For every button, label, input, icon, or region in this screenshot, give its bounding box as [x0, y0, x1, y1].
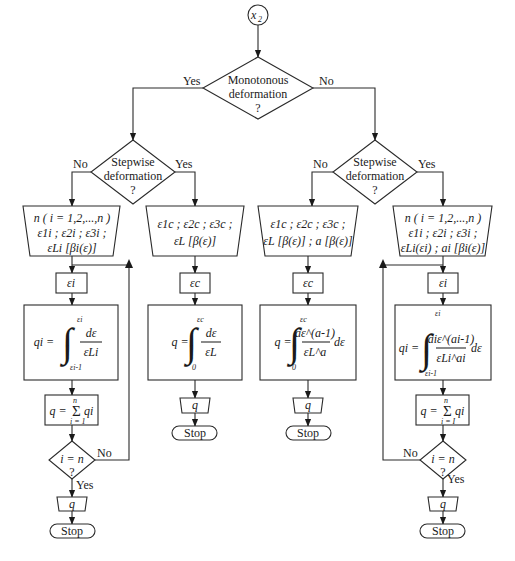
formula-box-col3: q = ∫ εc 0 aε^(a-1) εL^a dε — [260, 305, 356, 380]
text-label: Stop — [61, 524, 83, 538]
text-label: qi — [84, 404, 93, 418]
label-no: No — [319, 74, 334, 88]
text-label: Stop — [432, 524, 454, 538]
input-box-col4: n ( i = 1,2,...,n ) ε1i ; ε2i ; ε3i ; εL… — [393, 206, 492, 256]
decision-stepwise-right: Stepwise deformation ? — [333, 140, 417, 204]
text-label: εL [β(ε)] ; a [β(ε)] — [263, 234, 353, 248]
output-box-col1: q — [57, 497, 87, 511]
variable-box-col3: εc — [293, 273, 323, 293]
label-no: No — [73, 157, 88, 171]
text-label: dε — [206, 326, 217, 340]
stop-terminal-col3: Stop — [286, 426, 331, 440]
text-label: qi — [455, 404, 464, 418]
text-label: εL — [205, 345, 217, 359]
text-label: Stepwise — [111, 155, 154, 169]
text-label: εL^a — [304, 345, 326, 359]
connector — [417, 172, 443, 206]
sum-box-col4: q = Σ n i = I qi — [416, 395, 469, 426]
input-box-col3: ε1c ; ε2c ; ε3c ; εL [β(ε)] ; a [β(ε)] — [258, 206, 358, 256]
text-label: n — [444, 396, 448, 405]
decision-stepwise-left: Stepwise deformation ? — [91, 140, 175, 204]
text-label: ε1c ; ε2c ; ε3c ; — [157, 217, 232, 231]
text-label: εi-1 — [70, 363, 82, 372]
text-label: qi = — [399, 341, 419, 355]
text-label: deformation — [229, 87, 288, 101]
input-box-col2: ε1c ; ε2c ; ε3c ; εL [β(ε)] — [146, 206, 244, 256]
formula-box-col1: qi = ∫ εi εi-1 dε εLi — [24, 305, 118, 380]
text-label: i = n — [431, 452, 454, 466]
label-no: No — [403, 446, 418, 460]
stop-terminal-col1: Stop — [50, 524, 95, 538]
text-label: εc — [197, 315, 204, 324]
text-label: aε^(a-1) — [295, 326, 335, 340]
text-label: εi — [439, 276, 447, 290]
stop-terminal-col4: Stop — [420, 524, 465, 538]
input-box-col1: n ( i = 1,2,...,n ) ε1i ; ε2i ; ε3i ; εL… — [23, 206, 120, 256]
text-label: deformation — [104, 169, 163, 183]
text-label: εi — [77, 315, 82, 324]
text-label: deformation — [346, 169, 405, 183]
text-label: 0 — [192, 363, 196, 372]
text-label: ? — [440, 465, 445, 479]
text-label: εLi [βi(ε)] — [47, 241, 96, 255]
label-no: No — [313, 157, 328, 171]
text-label: dε — [334, 335, 345, 349]
text-label: εc — [300, 315, 307, 324]
decision-loop-left: i = n ? — [49, 441, 95, 479]
text-label: q — [192, 398, 198, 412]
text-label: n ( i = 1,2,...,n ) — [34, 211, 110, 225]
decision-monotonous: Monotonous deformation ? — [203, 57, 313, 119]
text-label: x — [250, 8, 257, 22]
text-label: qi = — [34, 335, 54, 349]
connector — [312, 172, 333, 206]
text-label: ? — [130, 183, 135, 197]
variable-box-col1: εi — [56, 273, 87, 293]
arrowhead — [125, 259, 133, 268]
text-label: q = — [49, 404, 66, 418]
text-label: εc — [303, 276, 314, 290]
text-label: εLi — [84, 345, 99, 359]
flowchart: x 2 Monotonous deformation ? Yes No Step… — [0, 0, 515, 561]
text-label: q — [305, 398, 311, 412]
sum-box-col1: q = Σ n i = 1 qi — [45, 395, 98, 426]
text-label: ε1i ; ε2i ; ε3i ; — [408, 226, 477, 240]
text-label: Stop — [184, 426, 206, 440]
text-label: i = I — [441, 417, 456, 426]
text-label: 0 — [292, 363, 296, 372]
text-label: 2 — [258, 15, 262, 24]
label-yes: Yes — [447, 472, 465, 486]
variable-box-col4: εi — [428, 273, 458, 293]
text-label: εLi(εi) ; ai [βi(ε)] — [401, 241, 486, 255]
text-label: Monotonous — [228, 73, 289, 87]
text-label: n ( i = 1,2,...,n ) — [405, 211, 481, 225]
text-label: i = 1 — [70, 417, 86, 426]
text-label: εc — [190, 276, 201, 290]
variable-box-col2: εc — [180, 273, 210, 293]
text-label: q — [69, 497, 75, 511]
label-yes: Yes — [76, 478, 94, 492]
start-connector: x 2 — [248, 5, 268, 25]
output-box-col4: q — [428, 497, 458, 511]
text-label: εi — [435, 309, 440, 318]
shape — [146, 206, 244, 256]
text-label: n — [73, 396, 77, 405]
text-label: Stepwise — [353, 155, 396, 169]
text-label: εLi^ai — [436, 351, 465, 365]
text-label: εL [β(ε)] — [174, 234, 217, 248]
connector — [313, 88, 375, 140]
label-yes: Yes — [175, 157, 193, 171]
text-label: Stop — [297, 426, 319, 440]
formula-box-col4: qi = ∫ εi εi-1 aiε^(ai-1) εLi^ai dε — [395, 305, 491, 380]
text-label: εi-1 — [425, 369, 437, 378]
text-label: aiε^(ai-1) — [428, 332, 474, 346]
label-yes: Yes — [418, 157, 436, 171]
arrowhead — [379, 259, 387, 268]
text-label: ε1i ; ε2i ; ε3i ; — [37, 226, 106, 240]
text-label: dε — [86, 326, 97, 340]
text-label: ε1c ; ε2c ; ε3c ; — [270, 217, 345, 231]
output-box-col2: q — [180, 398, 210, 413]
output-box-col3: q — [293, 398, 323, 413]
text-label: εi — [67, 276, 75, 290]
label-no: No — [97, 446, 112, 460]
text-label: ? — [372, 183, 377, 197]
